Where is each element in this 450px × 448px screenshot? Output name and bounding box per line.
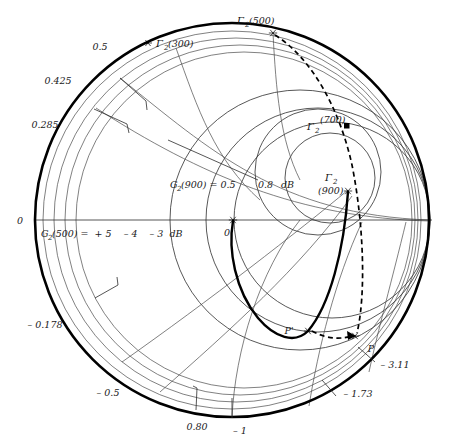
rim-label-minus-0p5: – 0.5 (97, 387, 120, 398)
axis-label-zero-left: 0 (17, 215, 23, 226)
g2-500-values: (500) = + 5 – 4 – 3 dB (52, 228, 182, 239)
smith-chart-figure: 0.5 0.425 0.285 – 0.178 – 0.5 0.80 – 1 –… (0, 0, 450, 448)
g2-900-value-08: 0.8 (258, 179, 273, 190)
rim-label-minus-1p73: – 1.73 (344, 388, 373, 399)
point-label-p-prime: P' (283, 325, 293, 336)
smith-chart-canvas: 0.5 0.425 0.285 – 0.178 – 0.5 0.80 – 1 –… (0, 0, 450, 448)
g2-900-units: dB (281, 179, 294, 190)
gamma2-300-symbol: Γ (155, 38, 164, 49)
rim-label-0p80: 0.80 (186, 421, 207, 432)
axis-label-zero-center: 0 (224, 227, 230, 238)
rim-label-minus-1: – 1 (233, 425, 247, 436)
gamma2-900-symbol: Γ (324, 172, 333, 183)
gamma2-700-argument: (700) (320, 114, 346, 125)
rim-label-0p5: 0.5 (92, 41, 107, 52)
point-label-p: P (367, 343, 375, 354)
rim-label-minus-3p11: – 3.11 (381, 359, 410, 370)
rim-label-0p425: 0.425 (44, 75, 71, 86)
gamma2-700-symbol: Γ (306, 121, 315, 132)
g2-900-value: (900) = 0.5 (181, 179, 236, 190)
chart-background (0, 0, 450, 448)
rim-label-minus-0p178: – 0.178 (28, 319, 63, 330)
gamma2-300-argument: (300) (168, 38, 194, 49)
gamma2-900-argument: (900) (318, 185, 344, 196)
rim-label-0p285: 0.285 (31, 119, 58, 130)
gamma2-500-argument: (500) (249, 15, 275, 26)
gamma2-500-symbol: Γ (236, 15, 245, 26)
gamma2-700-subscript: 2 (314, 127, 320, 135)
